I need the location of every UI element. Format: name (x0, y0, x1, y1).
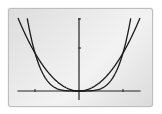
graph (0, 0, 162, 114)
axes (17, 18, 140, 100)
